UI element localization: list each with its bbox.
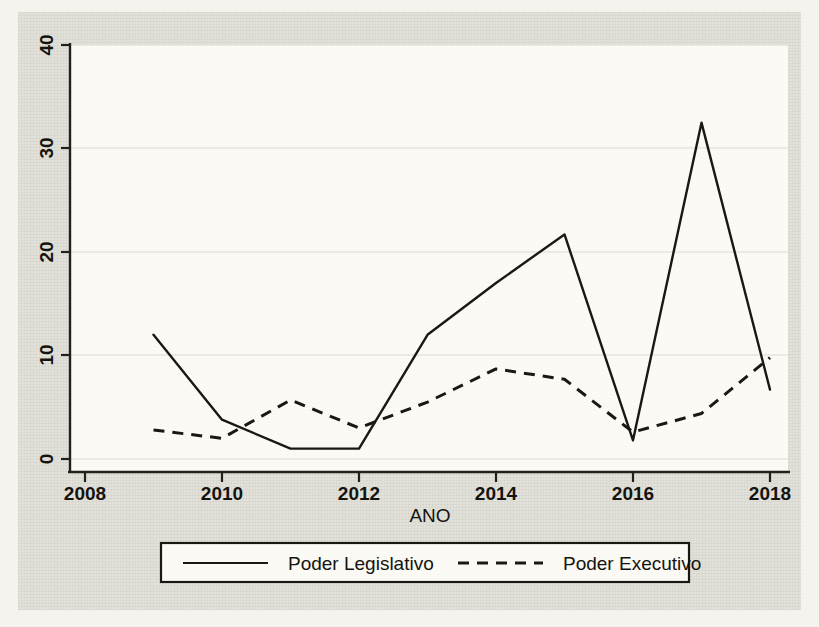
x-axis: 2008 2010 2012 2014 2016 2018 ANO: [64, 472, 791, 526]
y-tick-label-20: 20: [36, 241, 57, 262]
series-poder-legislativo: [154, 123, 771, 449]
y-tick-label-40: 40: [36, 34, 57, 55]
chart-legend: Poder Legislativo Poder Executivo: [161, 543, 701, 582]
x-tick-label-2014: 2014: [475, 483, 518, 504]
y-tick-label-30: 30: [36, 137, 57, 158]
x-tick-label-2018: 2018: [749, 483, 791, 504]
series-poder-executivo: [154, 358, 771, 439]
legend-label-poder-legislativo: Poder Legislativo: [288, 553, 434, 574]
x-tick-label-2008: 2008: [64, 483, 106, 504]
line-chart: 40 30 20 10 0 2008 2010 2012 2014 2016 2…: [0, 0, 819, 627]
legend-label-poder-executivo: Poder Executivo: [563, 553, 701, 574]
scanned-page: 40 30 20 10 0 2008 2010 2012 2014 2016 2…: [0, 0, 819, 627]
x-tick-label-2010: 2010: [201, 483, 243, 504]
y-axis: 40 30 20 10 0: [36, 34, 70, 472]
x-tick-label-2012: 2012: [338, 483, 380, 504]
x-axis-title: ANO: [409, 505, 450, 526]
y-tick-label-0: 0: [36, 454, 57, 465]
x-tick-label-2016: 2016: [612, 483, 654, 504]
gridlines: [70, 45, 788, 459]
data-series-group: [154, 123, 771, 449]
y-tick-label-10: 10: [36, 344, 57, 365]
